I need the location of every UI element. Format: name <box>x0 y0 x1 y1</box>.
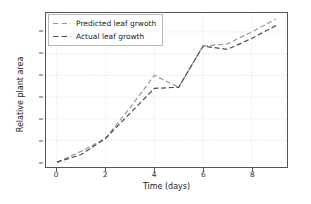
legend-item-actual: Actual leaf growth <box>53 31 156 42</box>
y-tick-mark <box>39 31 43 32</box>
x-tick-mark <box>56 168 57 172</box>
chart-figure: Relative plant area 1.01.21.41.61.82.02.… <box>0 0 311 204</box>
legend-line-swatch-predicted <box>53 20 71 27</box>
y-tick-mark <box>39 75 43 76</box>
y-tick-mark <box>39 53 43 54</box>
legend-label-predicted: Predicted leaf grwoth <box>76 20 156 28</box>
y-tick-mark <box>39 163 43 164</box>
x-tick-mark <box>105 168 106 172</box>
y-tick-mark <box>39 141 43 142</box>
x-tick-mark <box>252 168 253 172</box>
legend-line-swatch-actual <box>53 33 71 40</box>
y-tick-mark <box>39 97 43 98</box>
x-tick-mark <box>154 168 155 172</box>
y-tick-mark <box>39 119 43 120</box>
legend-label-actual: Actual leaf growth <box>76 33 144 41</box>
chart-legend: Predicted leaf grwoth Actual leaf growth <box>48 14 163 46</box>
y-axis-label: Relative plant area <box>16 35 25 155</box>
x-axis-label: Time (days) <box>45 182 288 191</box>
x-tick-mark <box>203 168 204 172</box>
legend-item-predicted: Predicted leaf grwoth <box>53 18 156 29</box>
